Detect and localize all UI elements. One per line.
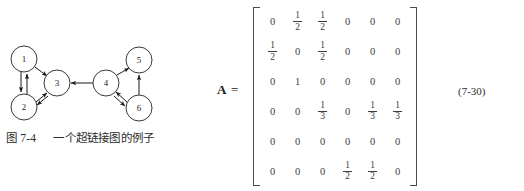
graph-node-3-label: 3 <box>55 78 60 88</box>
matrix-cell-5-3: 0 <box>310 126 335 156</box>
graph-node-5-label: 5 <box>137 55 142 65</box>
edge-6-to-4 <box>116 92 127 102</box>
edge-1-to-3 <box>35 67 47 76</box>
matrix-cell-2-3: 12 <box>310 37 335 67</box>
matrix-cell-5-1: 0 <box>260 126 285 156</box>
graph-node-4-label: 4 <box>104 78 109 88</box>
fraction-denominator: 3 <box>319 112 327 122</box>
matrix-cell-6-5: 12 <box>360 156 385 186</box>
equals-sign: = <box>231 82 238 98</box>
matrix-cell-2-6: 0 <box>385 37 410 67</box>
matrix-cell-5-5: 0 <box>360 126 385 156</box>
matrix-cell-3-2: 1 <box>285 67 310 97</box>
figure-caption-text: 一个超链接图的例子 <box>53 132 154 144</box>
matrix-cell-3-5: 0 <box>360 67 385 97</box>
matrix-cell-1-4: 0 <box>335 7 360 37</box>
figure-panel: 1 2 3 4 5 6 图 7-4 一个超链接图的例子 <box>0 0 200 191</box>
matrix-variable-name: A <box>217 82 226 98</box>
fraction-denominator: 2 <box>369 172 377 182</box>
matrix-cell-4-1: 0 <box>260 97 285 127</box>
matrix-cell-2-5: 0 <box>360 37 385 67</box>
equation-number: (7-30) <box>458 85 486 97</box>
matrix-cell-1-3: 12 <box>310 7 335 37</box>
matrix-cell-5-4: 0 <box>335 126 360 156</box>
fraction-denominator: 2 <box>344 172 352 182</box>
matrix-cell-6-6: 0 <box>385 156 410 186</box>
fraction: 13 <box>318 101 327 122</box>
figure-caption-label: 图 7-4 <box>6 132 36 144</box>
matrix-cell-6-4: 12 <box>335 156 360 186</box>
matrix-left-bracket <box>253 7 260 186</box>
matrix: 0121200012012000010000001301313000000000… <box>250 7 417 186</box>
matrix-cell-1-5: 0 <box>360 7 385 37</box>
fraction: 12 <box>318 41 327 62</box>
fraction: 12 <box>293 11 302 32</box>
graph-node-6-label: 6 <box>137 103 142 113</box>
fraction-numerator: 1 <box>269 41 277 51</box>
matrix-cell-1-2: 12 <box>285 7 310 37</box>
hyperlink-graph: 1 2 3 4 5 6 <box>0 26 200 126</box>
matrix-cell-1-6: 0 <box>385 7 410 37</box>
fraction-numerator: 1 <box>344 161 352 171</box>
matrix-cell-4-5: 13 <box>360 97 385 127</box>
fraction: 13 <box>393 101 402 122</box>
matrix-cell-3-6: 0 <box>385 67 410 97</box>
fraction-denominator: 2 <box>319 22 327 32</box>
edge-3-to-2 <box>37 96 48 105</box>
fraction-numerator: 1 <box>394 101 402 111</box>
matrix-cell-4-4: 0 <box>335 97 360 127</box>
fraction-denominator: 2 <box>294 22 302 32</box>
fraction-denominator: 2 <box>269 52 277 62</box>
matrix-cell-4-6: 13 <box>385 97 410 127</box>
graph-node-1-label: 1 <box>22 54 27 64</box>
matrix-cell-3-3: 0 <box>310 67 335 97</box>
fraction-denominator: 3 <box>394 112 402 122</box>
fraction: 13 <box>368 101 377 122</box>
matrix-cell-5-2: 0 <box>285 126 310 156</box>
fraction-denominator: 2 <box>319 52 327 62</box>
matrix-cell-6-1: 0 <box>260 156 285 186</box>
graph-node-2-label: 2 <box>22 102 27 112</box>
fraction: 12 <box>318 11 327 32</box>
fraction: 12 <box>343 161 352 182</box>
equation-panel: A = 012120001201200001000000130131300000… <box>200 0 524 191</box>
matrix-right-bracket <box>410 7 417 186</box>
fraction-denominator: 3 <box>369 112 377 122</box>
matrix-cell-3-4: 0 <box>335 67 360 97</box>
graph-edges <box>21 67 139 106</box>
fraction-numerator: 1 <box>369 161 377 171</box>
edge-2-to-3 <box>36 93 47 102</box>
fraction-numerator: 1 <box>294 11 302 21</box>
matrix-cell-5-6: 0 <box>385 126 410 156</box>
fraction-numerator: 1 <box>319 11 327 21</box>
matrix-cell-4-2: 0 <box>285 97 310 127</box>
matrix-grid: 0121200012012000010000001301313000000000… <box>260 7 410 186</box>
matrix-cell-2-2: 0 <box>285 37 310 67</box>
fraction-numerator: 1 <box>319 101 327 111</box>
matrix-cell-6-3: 0 <box>310 156 335 186</box>
fraction: 12 <box>268 41 277 62</box>
matrix-cell-3-1: 0 <box>260 67 285 97</box>
matrix-cell-1-1: 0 <box>260 7 285 37</box>
fraction: 12 <box>368 161 377 182</box>
edge-4-to-6 <box>114 96 125 106</box>
matrix-cell-2-4: 0 <box>335 37 360 67</box>
fraction-numerator: 1 <box>319 41 327 51</box>
figure-caption: 图 7-4 一个超链接图的例子 <box>6 129 154 145</box>
matrix-cell-4-3: 13 <box>310 97 335 127</box>
matrix-cell-6-2: 0 <box>285 156 310 186</box>
edge-4-to-5 <box>117 68 129 75</box>
fraction-numerator: 1 <box>369 101 377 111</box>
matrix-cell-2-1: 12 <box>260 37 285 67</box>
